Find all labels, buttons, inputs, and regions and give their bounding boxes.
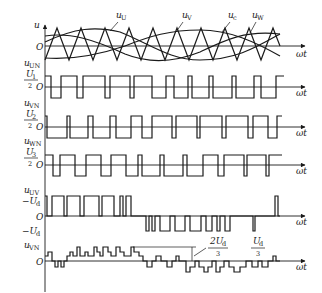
svg-text:ωt: ωt (296, 88, 307, 98)
two-thirds-leader (194, 248, 206, 256)
svg-text:2: 2 (28, 160, 32, 168)
svg-text:ωt: ωt (296, 217, 307, 227)
svg-text:ωt: ωt (296, 262, 307, 272)
svg-text:d: d (222, 240, 226, 248)
u-UV-pwm (45, 196, 280, 231)
svg-text:d: d (36, 230, 40, 238)
panel-u-UV: u UV −U d O ωt −U d (22, 185, 307, 238)
label-u-U: u U (110, 10, 127, 31)
spwm-waveform-diagram: u O ωt u U u V u c u W (0, 0, 322, 293)
u-WN-pwm (45, 155, 282, 176)
y-axis-label-u: u (34, 20, 40, 30)
u-VN-phase-stepped (45, 247, 280, 272)
svg-text:W: W (257, 14, 264, 22)
panel-u-VN-phase: u VN O ωt 2U d 3 U d 3 (24, 236, 307, 272)
svg-text:ωt: ωt (296, 128, 307, 138)
svg-text:O: O (36, 212, 44, 222)
panel-u-VN: u VN U 2 2 O ωt (24, 98, 307, 138)
svg-text:3: 3 (216, 250, 220, 258)
panel-u-WN: u WN U 3 2 O ωt (24, 136, 307, 176)
panel-u-UN: u UN U 1 2 O ωt (24, 58, 307, 98)
svg-text:ωt: ωt (296, 166, 307, 176)
label-u-W: u W (250, 10, 264, 33)
svg-text:2: 2 (28, 82, 32, 90)
carrier-triangle (45, 28, 280, 60)
svg-text:O: O (36, 160, 44, 170)
svg-text:O: O (36, 82, 44, 92)
label-two-thirds-Ud: 2U d 3 (208, 236, 228, 258)
svg-text:2: 2 (28, 122, 32, 130)
svg-text:U: U (121, 14, 127, 22)
svg-text:V: V (186, 14, 192, 22)
label-one-third-Ud: U d 3 (251, 236, 265, 258)
svg-text:d: d (36, 200, 40, 208)
origin-label: O (36, 42, 44, 52)
x-axis-label: ωt (296, 49, 307, 59)
svg-text:VN: VN (28, 244, 40, 252)
panel-reference-carrier: u O ωt u U u V u c u W (34, 10, 307, 61)
label-u-c: u c (222, 10, 237, 32)
svg-text:O: O (36, 122, 44, 132)
svg-text:O: O (36, 257, 44, 267)
svg-text:d: d (259, 240, 263, 248)
svg-text:c: c (233, 14, 237, 22)
svg-text:3: 3 (256, 250, 260, 258)
label-u-V: u V (176, 10, 192, 32)
